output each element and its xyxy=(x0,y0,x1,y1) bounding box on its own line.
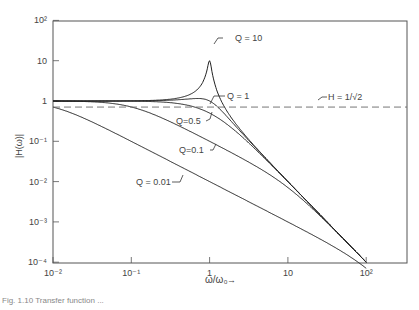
label-h: H = 1/√2 xyxy=(328,92,362,102)
annotation-q10: Q = 10 xyxy=(214,33,262,44)
curve-q-10 xyxy=(53,61,366,263)
x-tick-label: 10⁻² xyxy=(44,268,62,278)
annotation-q01: Q=0.1 xyxy=(179,144,216,155)
y-tick-label: 10⁻² xyxy=(29,177,47,187)
annotation-h: H = 1/√2 xyxy=(318,92,362,102)
annotation-q001: Q = 0.01 xyxy=(136,175,183,187)
label-q1: Q = 1 xyxy=(227,91,249,101)
x-tick-label: 10² xyxy=(360,268,373,278)
y-tick-label: 10² xyxy=(34,15,47,25)
y-tick-label: 10 xyxy=(37,56,47,66)
figure-caption: Fig. 1.10 Transfer function ... xyxy=(2,296,104,305)
x-axis-label: ω/ω₀ xyxy=(205,274,228,285)
bode-magnitude-chart: 10⁻²10⁻¹11010²10²10110⁻¹10⁻²10⁻³10⁻⁴ Q =… xyxy=(0,0,419,310)
y-tick-label: 10⁻³ xyxy=(29,217,47,227)
label-q10: Q = 10 xyxy=(235,33,262,43)
y-tick-label: 1 xyxy=(42,96,47,106)
x-axis-arrow: → xyxy=(227,275,236,285)
annotation-q05: Q=0.5 xyxy=(176,112,212,126)
label-q05: Q=0.5 xyxy=(176,116,201,126)
curve-q-0-01 xyxy=(53,107,366,268)
label-q001: Q = 0.01 xyxy=(136,177,171,187)
plot-frame xyxy=(53,21,407,263)
y-axis-label: |H(ω)| xyxy=(14,134,24,158)
annotation-q1: Q = 1 xyxy=(210,91,249,104)
y-tick-label: 10⁻¹ xyxy=(29,136,47,146)
x-tick-label: 10⁻¹ xyxy=(122,268,140,278)
curve-q-1 xyxy=(53,99,366,263)
label-q01: Q=0.1 xyxy=(179,145,204,155)
y-tick-label: 10⁻⁴ xyxy=(28,257,47,267)
x-tick-label: 10 xyxy=(283,268,293,278)
